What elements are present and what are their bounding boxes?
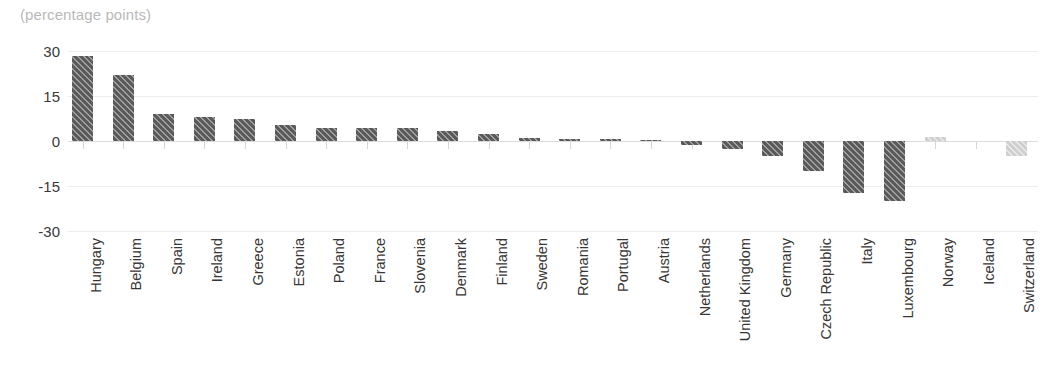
bar-belgium (113, 75, 134, 141)
y-tick-label: -15 (14, 178, 60, 195)
bar-czech-republic (803, 141, 824, 171)
category-label-spain: Spain (170, 238, 185, 275)
bar-hungary (72, 56, 93, 142)
category-label-italy: Italy (860, 238, 875, 265)
bar-germany (762, 141, 783, 156)
bar-spain (153, 114, 174, 141)
y-tick-label: 15 (14, 88, 60, 105)
x-tickmark (570, 142, 571, 149)
bar-italy (843, 141, 864, 193)
category-label-ireland: Ireland (210, 238, 225, 282)
bar-finland (478, 134, 499, 141)
x-tickmark (407, 142, 408, 149)
category-label-romania: Romania (576, 238, 591, 296)
x-tickmark (286, 142, 287, 149)
category-label-iceland: Iceland (982, 238, 997, 285)
bar-france (356, 128, 377, 141)
bar-romania (559, 139, 580, 141)
gridline-15 (68, 96, 1038, 97)
bar-switzerland (1006, 141, 1027, 156)
category-label-sweden: Sweden (535, 238, 550, 290)
bar-norway (925, 137, 946, 142)
x-tickmark (245, 142, 246, 149)
category-label-portugal: Portugal (616, 238, 631, 292)
bar-luxembourg (884, 141, 905, 201)
category-label-hungary: Hungary (89, 238, 104, 293)
category-label-poland: Poland (332, 238, 347, 283)
category-label-czech-republic: Czech Republic (819, 238, 834, 340)
x-tickmark (610, 142, 611, 149)
category-labels: HungaryBelgiumSpainIrelandGreeceEstoniaP… (68, 238, 1038, 378)
bar-austria (640, 140, 661, 141)
bar-estonia (275, 125, 296, 142)
category-label-estonia: Estonia (292, 238, 307, 286)
x-tickmark (448, 142, 449, 149)
gridline--30 (68, 231, 1038, 232)
y-tick-label: 0 (14, 133, 60, 150)
x-tickmark (123, 142, 124, 149)
plot-area (68, 51, 1038, 231)
x-tickmark (489, 142, 490, 149)
y-tick-label: -30 (14, 223, 60, 240)
x-tickmark (976, 142, 977, 149)
category-label-luxembourg: Luxembourg (901, 238, 916, 319)
category-label-france: France (373, 238, 388, 283)
bar-chart: (percentage points) 30150-15-30 HungaryB… (0, 0, 1048, 387)
bar-ireland (194, 117, 215, 141)
x-tickmark (651, 142, 652, 149)
category-label-germany: Germany (779, 238, 794, 298)
bar-greece (234, 119, 255, 142)
bar-united-kingdom (722, 141, 743, 149)
gridline-30 (68, 51, 1038, 52)
bar-netherlands (681, 141, 702, 145)
bar-poland (316, 128, 337, 142)
bar-slovenia (397, 128, 418, 141)
x-tickmark (83, 142, 84, 149)
category-label-netherlands: Netherlands (698, 238, 713, 316)
category-label-united-kingdom: United Kingdom (738, 238, 753, 341)
bar-denmark (437, 131, 458, 141)
x-tickmark (164, 142, 165, 149)
x-tickmark (935, 142, 936, 149)
y-tick-label: 30 (14, 43, 60, 60)
category-label-norway: Norway (941, 238, 956, 287)
x-tickmark (367, 142, 368, 149)
category-label-austria: Austria (657, 238, 672, 283)
category-label-belgium: Belgium (129, 238, 144, 290)
x-tickmark (529, 142, 530, 149)
bar-portugal (600, 139, 621, 141)
category-label-greece: Greece (251, 238, 266, 286)
category-label-denmark: Denmark (454, 238, 469, 297)
bar-sweden (519, 138, 540, 141)
x-tickmark (326, 142, 327, 149)
x-tickmark (204, 142, 205, 149)
category-label-slovenia: Slovenia (413, 238, 428, 294)
category-label-finland: Finland (495, 238, 510, 286)
y-axis-tick-labels: 30150-15-30 (0, 0, 60, 387)
category-label-switzerland: Switzerland (1022, 238, 1037, 313)
